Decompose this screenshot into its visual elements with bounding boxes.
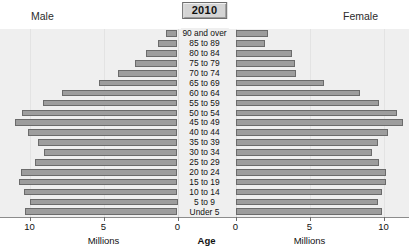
bar-male bbox=[118, 70, 177, 77]
bar-female bbox=[236, 189, 383, 196]
bar-male bbox=[22, 110, 177, 117]
age-group-label: 90 and over bbox=[180, 28, 228, 38]
pyramid-row: Under 5 bbox=[0, 207, 409, 217]
age-group-label: 15 to 19 bbox=[187, 177, 221, 187]
bar-male bbox=[19, 179, 177, 186]
x-tick-label-left: 5 bbox=[101, 221, 106, 232]
bar-female bbox=[236, 199, 378, 206]
age-group-label: 55 to 59 bbox=[187, 98, 221, 108]
bar-male bbox=[135, 60, 178, 67]
bar-male bbox=[44, 149, 177, 156]
bar-male bbox=[24, 189, 178, 196]
age-group-label: 20 to 24 bbox=[187, 167, 221, 177]
x-tick-label-left: 10 bbox=[24, 221, 35, 232]
x-axis-title-left: Millions bbox=[88, 235, 120, 246]
bar-male bbox=[99, 80, 177, 87]
x-axis-title-right: Millions bbox=[294, 235, 326, 246]
bar-female bbox=[236, 80, 325, 87]
bar-male bbox=[15, 119, 178, 126]
age-group-label: 40 to 44 bbox=[187, 127, 221, 137]
x-axis-title-center: Age bbox=[198, 235, 216, 246]
x-tick-label-right: 0 bbox=[233, 221, 238, 232]
age-group-label: 45 to 49 bbox=[187, 117, 221, 127]
bar-female bbox=[236, 60, 295, 67]
male-header: Male bbox=[31, 10, 54, 22]
bar-male bbox=[43, 100, 178, 107]
bar-male bbox=[21, 169, 178, 176]
x-axis-line bbox=[0, 217, 409, 218]
bar-female bbox=[236, 208, 383, 215]
bar-male bbox=[30, 199, 178, 206]
bar-female bbox=[236, 40, 266, 47]
year-badge[interactable]: 2010 bbox=[182, 2, 228, 19]
bar-male bbox=[158, 40, 177, 47]
age-group-label: 70 to 74 bbox=[187, 68, 221, 78]
age-group-label: 60 to 64 bbox=[187, 88, 221, 98]
age-group-label: 80 to 84 bbox=[187, 48, 221, 58]
bar-female bbox=[236, 50, 292, 57]
bar-male bbox=[38, 139, 177, 146]
bar-female bbox=[236, 129, 388, 136]
bar-female bbox=[236, 149, 372, 156]
bar-female bbox=[236, 70, 297, 77]
age-group-label: 85 to 89 bbox=[187, 38, 221, 48]
bar-male bbox=[25, 208, 177, 215]
bar-female bbox=[236, 159, 380, 166]
x-tick-label-left: 0 bbox=[175, 221, 180, 232]
age-group-label: Under 5 bbox=[188, 207, 222, 217]
bar-male bbox=[146, 50, 177, 57]
bar-female bbox=[236, 119, 403, 126]
bar-male bbox=[62, 90, 177, 97]
bar-female bbox=[236, 100, 380, 107]
age-group-label: 65 to 69 bbox=[187, 78, 221, 88]
bar-female bbox=[236, 110, 397, 117]
population-pyramid-chart: 2010 Male Female 90 and over85 to 8980 t… bbox=[0, 0, 409, 251]
female-header: Female bbox=[343, 10, 378, 22]
age-group-label: 35 to 39 bbox=[187, 137, 221, 147]
bar-male bbox=[28, 129, 177, 136]
age-group-label: 50 to 54 bbox=[187, 108, 221, 118]
bar-female bbox=[236, 90, 360, 97]
bar-female bbox=[236, 169, 387, 176]
age-group-label: 10 to 14 bbox=[187, 187, 221, 197]
age-group-label: 5 to 9 bbox=[192, 197, 217, 207]
bar-female bbox=[236, 139, 378, 146]
plot-panel: 90 and over85 to 8980 to 8475 to 7970 to… bbox=[0, 29, 409, 217]
age-group-label: 30 to 34 bbox=[187, 147, 221, 157]
x-tick-label-right: 10 bbox=[378, 221, 389, 232]
age-group-label: 75 to 79 bbox=[187, 58, 221, 68]
x-tick-label-right: 5 bbox=[307, 221, 312, 232]
bar-female bbox=[236, 179, 387, 186]
bar-male bbox=[166, 30, 178, 37]
bar-male bbox=[35, 159, 177, 166]
bar-female bbox=[236, 30, 269, 37]
age-group-label: 25 to 29 bbox=[187, 157, 221, 167]
